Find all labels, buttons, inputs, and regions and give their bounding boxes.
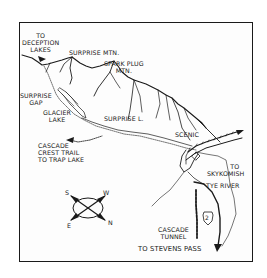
label-scenic: SCENIC [175, 131, 199, 138]
compass-s: S [65, 189, 69, 196]
arrow-skykomish [236, 130, 244, 135]
arrow-deception [38, 56, 46, 62]
highway-shield-number: 2 [205, 214, 209, 221]
label-cascade-tunnel: CASCADE TUNNEL [158, 226, 189, 240]
label-cascade-crest-trail: CASCADE CREST TRAIL TO TRAP LAKE [38, 142, 84, 163]
label-to-skykomish: TO SKYKOMISH [207, 163, 244, 177]
label-tye-river: TYE RIVER [206, 182, 239, 189]
label-surprise-mtn: SURPRISE MTN. [69, 49, 119, 56]
label-surprise-gap: SURPRISE GAP [20, 92, 52, 106]
compass-e: E [67, 222, 71, 229]
cascade-tunnel [196, 190, 197, 238]
deception-trail [44, 66, 196, 150]
label-glacier-lake: GLACIER LAKE [43, 109, 71, 123]
label-spark-plug-mtn: SPARK PLUG MTN. [104, 60, 144, 74]
label-to-stevens-pass: TO STEVENS PASS [138, 245, 201, 253]
highway-line [186, 138, 242, 160]
compass-n: N [108, 219, 113, 226]
compass-w: W [103, 189, 109, 196]
label-surprise-lake: SURPRISE L. [104, 115, 144, 122]
arrow-stevens-pass [214, 244, 222, 252]
label-to-deception-lakes: TO DECEPTION LAKES [22, 32, 59, 53]
